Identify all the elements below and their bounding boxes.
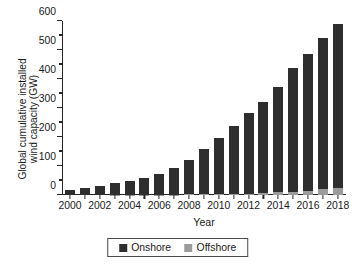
x-axis-tick <box>263 195 264 199</box>
bar-group[interactable] <box>258 21 268 195</box>
x-axis-tick <box>144 195 145 199</box>
bar-segment-offshore[interactable] <box>333 188 343 195</box>
bar-segment-onshore[interactable] <box>169 168 179 195</box>
bar-segment-onshore[interactable] <box>273 87 283 192</box>
y-axis-tick-label: 600 <box>39 5 56 16</box>
bar-group[interactable]: 2014 <box>273 21 283 195</box>
bar-group[interactable]: 2000 <box>65 21 75 195</box>
bar-segment-onshore[interactable] <box>258 102 268 193</box>
bar-group[interactable] <box>80 21 90 195</box>
x-axis-tick-label: 2016 <box>296 200 319 211</box>
bar-group[interactable] <box>229 21 239 195</box>
bar-group[interactable]: 2010 <box>214 21 224 195</box>
bar-segment-onshore[interactable] <box>154 174 164 195</box>
x-axis-tick-label: 2000 <box>58 200 81 211</box>
x-axis-tick <box>84 195 85 199</box>
y-axis-title-line-1: Global cumulative installed <box>17 58 28 179</box>
x-axis-tick <box>337 195 338 199</box>
bar-group[interactable]: 2002 <box>95 21 105 195</box>
x-axis-tick <box>129 195 130 199</box>
y-axis-tick-label: 100 <box>39 150 56 161</box>
bar-group[interactable]: 2012 <box>244 21 254 195</box>
x-axis-tick <box>69 195 70 199</box>
y-axis-tick-label: 200 <box>39 121 56 132</box>
x-axis-tick <box>307 195 308 199</box>
x-axis-tick-label: 2010 <box>207 200 230 211</box>
bar-segment-onshore[interactable] <box>318 38 328 189</box>
bar-group[interactable]: 2004 <box>125 21 135 195</box>
bar-segment-onshore[interactable] <box>244 113 254 194</box>
x-axis-tick <box>322 195 323 199</box>
plot-area: 0100200300400500600 20002002200420062008… <box>62 21 346 195</box>
x-axis-tick <box>114 195 115 199</box>
bar-segment-onshore[interactable] <box>95 186 105 195</box>
chart-legend: OnshoreOffshore <box>107 238 249 257</box>
y-axis-title: Global cumulative installed wind capacit… <box>13 29 43 209</box>
x-axis-tick <box>278 195 279 199</box>
x-axis-tick <box>159 195 160 199</box>
bar-segment-onshore[interactable] <box>333 24 343 189</box>
bar-segment-onshore[interactable] <box>303 54 313 191</box>
bar-group[interactable] <box>110 21 120 195</box>
legend-label: Onshore <box>131 242 171 253</box>
x-axis-tick <box>188 195 189 199</box>
legend-swatch-icon <box>119 244 127 252</box>
bar-group[interactable]: 2018 <box>333 21 343 195</box>
legend-label: Offshore <box>197 242 237 253</box>
bar-group[interactable]: 2016 <box>303 21 313 195</box>
bar-segment-onshore[interactable] <box>229 126 239 194</box>
x-axis-tick-label: 2014 <box>267 200 290 211</box>
x-axis-title: Year <box>62 216 346 228</box>
x-axis-tick-label: 2004 <box>118 200 141 211</box>
bar-group[interactable] <box>169 21 179 195</box>
x-axis-tick-label: 2012 <box>237 200 260 211</box>
wind-capacity-bar-chart: Global cumulative installed wind capacit… <box>0 0 355 266</box>
bar-group[interactable] <box>318 21 328 195</box>
x-axis-tick-label: 2018 <box>326 200 349 211</box>
y-axis-tick-label: 500 <box>39 34 56 45</box>
legend-swatch-icon <box>184 244 192 252</box>
bar-segment-onshore[interactable] <box>214 138 224 195</box>
bar-group[interactable] <box>199 21 209 195</box>
x-axis-tick <box>174 195 175 199</box>
x-axis-tick <box>218 195 219 199</box>
bar-segment-onshore[interactable] <box>199 149 209 195</box>
y-axis-tick-label: 0 <box>50 179 56 190</box>
bar-segment-onshore[interactable] <box>139 178 149 195</box>
bar-group[interactable]: 2006 <box>154 21 164 195</box>
bar-series-container: 2000200220042006200820102012201420162018 <box>62 21 346 195</box>
bar-segment-onshore[interactable] <box>184 160 194 195</box>
bar-group[interactable] <box>288 21 298 195</box>
x-axis-tick-label: 2002 <box>88 200 111 211</box>
bar-segment-onshore[interactable] <box>125 181 135 195</box>
bar-segment-onshore[interactable] <box>110 183 120 194</box>
x-axis-tick-label: 2006 <box>148 200 171 211</box>
y-axis-tick-label: 400 <box>39 63 56 74</box>
legend-item[interactable]: Onshore <box>119 242 171 253</box>
x-axis-tick-label: 2008 <box>177 200 200 211</box>
x-axis-tick <box>293 195 294 199</box>
y-axis-tick-label: 300 <box>39 92 56 103</box>
legend-item[interactable]: Offshore <box>184 242 236 253</box>
x-axis-tick <box>203 195 204 199</box>
x-axis-tick <box>233 195 234 199</box>
x-axis-tick <box>248 195 249 199</box>
x-axis-tick <box>99 195 100 199</box>
bar-segment-onshore[interactable] <box>288 68 298 191</box>
bar-group[interactable] <box>139 21 149 195</box>
bar-segment-onshore[interactable] <box>80 188 90 195</box>
bar-group[interactable]: 2008 <box>184 21 194 195</box>
